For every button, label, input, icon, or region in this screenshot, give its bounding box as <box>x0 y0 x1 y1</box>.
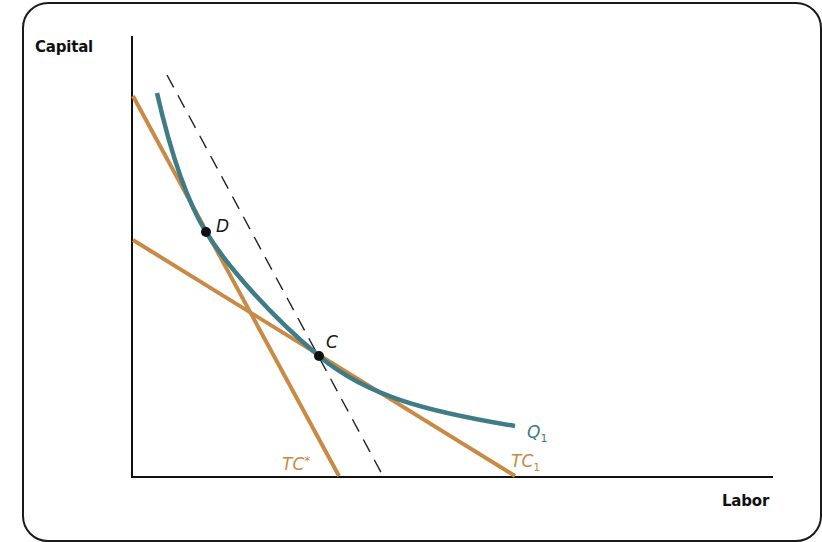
isocost-tc1-label: TC1 <box>511 453 540 473</box>
isocost-tc1-label-main: TC <box>511 451 533 471</box>
point-c-label: C <box>326 334 338 351</box>
isoquant-q1-label: Q1 <box>527 424 547 444</box>
isoquant-q1-label-main: Q <box>527 422 540 442</box>
isocost-tc-star-label-sup: * <box>304 454 310 468</box>
isocost-tc-star-label-main: TC <box>282 454 304 474</box>
isocost-tc-star-label: TC* <box>282 455 310 473</box>
point-c-marker <box>314 351 324 361</box>
x-axis-label: Labor <box>722 492 769 510</box>
isocost-tc-star-line <box>133 96 339 476</box>
isoquant-q1-label-sub: 1 <box>540 432 547 445</box>
point-d-marker <box>201 227 211 237</box>
y-axis-label: Capital <box>35 38 93 56</box>
dashed-isocost-line <box>167 75 383 476</box>
isocost-tc1-label-sub: 1 <box>533 461 540 474</box>
isoquant-q1-curve <box>157 93 515 426</box>
point-d-label: D <box>216 218 229 235</box>
